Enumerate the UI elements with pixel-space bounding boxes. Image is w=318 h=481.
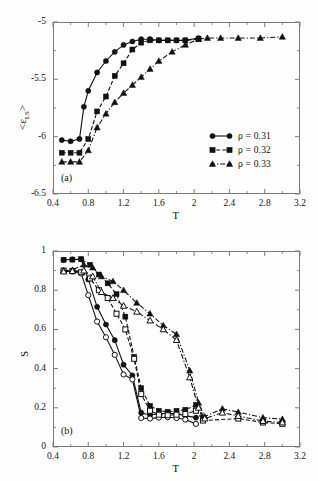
panel-b-canvas (0, 235, 318, 481)
y-tick-label: -6.5 (0, 188, 46, 198)
triangle-filled-legend-icon (208, 159, 234, 169)
x-tick-label: 2.4 (220, 198, 238, 208)
y-label-prefix: <ε (16, 119, 28, 130)
panel-b-y-axis-title: S (18, 351, 30, 357)
legend-item-label: ρ = 0.32 (234, 145, 271, 155)
x-tick-label: 3.2 (291, 451, 309, 461)
panel-b-tag: (b) (61, 425, 73, 436)
y-tick-label: 0 (0, 441, 46, 451)
circle-filled-legend-icon (208, 131, 234, 141)
y-label-subscript: LS (23, 111, 31, 119)
x-tick-label: 1.6 (150, 451, 168, 461)
x-tick-label: 0.4 (44, 198, 62, 208)
x-tick-label: 2.8 (256, 451, 274, 461)
square-filled-legend-icon (208, 145, 234, 155)
x-tick-label: 2.4 (220, 451, 238, 461)
y-tick-label: 0.4 (0, 363, 46, 373)
panel-a-x-axis-title: T (173, 210, 179, 221)
legend-item[interactable]: ρ = 0.32 (208, 144, 271, 155)
x-tick-label: 2.8 (256, 198, 274, 208)
y-tick-label: 0.6 (0, 323, 46, 333)
x-tick-label: 2 (185, 198, 203, 208)
y-tick-label: 1 (0, 245, 46, 255)
x-tick-label: 1.2 (115, 198, 133, 208)
y-tick-label: -5.5 (0, 73, 46, 83)
x-tick-label: 2 (185, 451, 203, 461)
panel-b: 0.40.81.21.622.42.83.200.20.40.60.81 T S… (0, 235, 318, 481)
legend-item[interactable]: ρ = 0.31 (208, 130, 271, 141)
panel-a-tag: (a) (61, 172, 72, 183)
y-label-suffix: > (16, 105, 28, 111)
panel-b-x-axis-title: T (173, 463, 179, 474)
legend-item-label: ρ = 0.33 (234, 159, 271, 169)
x-tick-label: 0.8 (79, 451, 97, 461)
x-tick-label: 0.8 (79, 198, 97, 208)
x-tick-label: 3.2 (291, 198, 309, 208)
figure-container: 0.40.81.21.622.42.83.2-6.5-6-5.5-5 T <εL… (0, 0, 318, 481)
x-tick-label: 0.4 (44, 451, 62, 461)
y-tick-label: 0.2 (0, 402, 46, 412)
legend-item[interactable]: ρ = 0.33 (208, 158, 271, 169)
panel-a-legend: ρ = 0.31ρ = 0.32ρ = 0.33 (208, 130, 271, 172)
x-tick-label: 1.6 (150, 198, 168, 208)
y-tick-label: -5 (0, 16, 46, 26)
panel-a-y-axis-title: <εLS> (16, 105, 31, 130)
panel-a: 0.40.81.21.622.42.83.2-6.5-6-5.5-5 T <εL… (0, 0, 318, 235)
y-tick-label: 0.8 (0, 284, 46, 294)
legend-item-label: ρ = 0.31 (234, 131, 271, 141)
y-tick-label: -6 (0, 131, 46, 141)
x-tick-label: 1.2 (115, 451, 133, 461)
